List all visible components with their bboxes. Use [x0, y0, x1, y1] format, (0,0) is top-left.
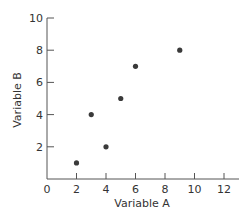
data-point [133, 64, 138, 69]
x-axis-ticks: 024681012 [44, 173, 232, 196]
x-tick-label: 10 [188, 183, 202, 196]
x-tick-label: 6 [132, 183, 139, 196]
y-tick-label: 8 [36, 44, 43, 57]
x-tick-label: 12 [217, 183, 231, 196]
x-tick-label: 4 [103, 183, 110, 196]
data-point [118, 96, 123, 101]
y-tick-label: 2 [36, 141, 43, 154]
y-tick-label: 6 [36, 76, 43, 89]
x-tick-label: 8 [162, 183, 169, 196]
y-axis-label: Variable B [11, 72, 24, 128]
x-axis-label: Variable A [114, 197, 170, 210]
y-tick-label: 4 [36, 109, 43, 122]
data-point [89, 112, 94, 117]
y-axis-ticks: 246810 [29, 12, 54, 154]
scatter-chart: 024681012 246810 Variable A Variable B [0, 0, 248, 218]
data-point [177, 48, 182, 53]
axes [47, 18, 239, 179]
data-points [74, 48, 182, 166]
y-tick-label: 10 [29, 12, 43, 25]
x-tick-label: 2 [73, 183, 80, 196]
data-point [74, 160, 79, 165]
data-point [103, 144, 108, 149]
x-tick-label: 0 [44, 183, 51, 196]
